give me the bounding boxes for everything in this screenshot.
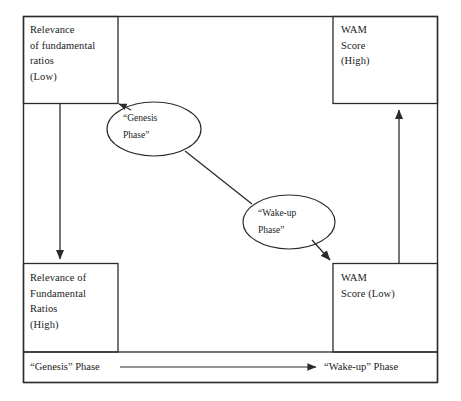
relevance-low-box-label: Relevance of fundamental ratios (Low) (30, 22, 95, 84)
relevance-high-box-label: Relevance of Fundamental Ratios (High) (30, 270, 86, 332)
genesis-phase-ellipse-label: “Genesis Phase” (123, 110, 193, 144)
genesis-to-wakeup-connector (185, 151, 252, 204)
wakeup-to-box-arrow (312, 240, 330, 260)
wake-up-phase-timeline-label: “Wake-up” Phase (324, 360, 398, 374)
wam-high-box-label: WAM Score (High) (341, 22, 370, 69)
wam-low-box-label: WAM Score (Low) (341, 270, 395, 301)
diagram-canvas: Relevance of fundamental ratios (Low) WA… (0, 0, 461, 401)
wake-up-phase-ellipse-label: “Wake-up Phase” (258, 205, 328, 239)
genesis-phase-timeline-label: “Genesis” Phase (30, 360, 100, 374)
